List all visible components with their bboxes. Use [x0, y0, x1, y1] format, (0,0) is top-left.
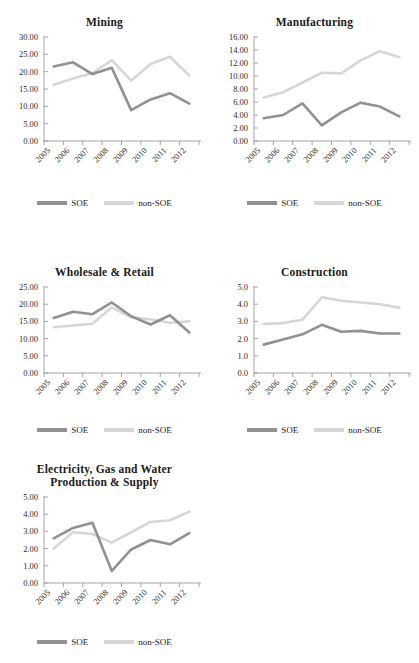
- x-axis-tick-label: 2008: [301, 377, 320, 396]
- x-axis-tick-label: 2005: [243, 145, 262, 164]
- legend-item-soe: SOE: [247, 198, 298, 208]
- legend-swatch-non-soe: [104, 428, 134, 433]
- series-line-non-soe: [264, 51, 400, 97]
- x-axis-tick-label: 2007: [282, 145, 301, 164]
- legend-label-non-soe: non-SOE: [138, 425, 172, 435]
- chart-panel-wholesale-retail: Wholesale & Retail 0.005.0010.0015.0020.…: [0, 252, 209, 435]
- x-axis-tick-label: 2012: [379, 377, 398, 396]
- x-axis-tick-label: 2005: [33, 377, 52, 396]
- y-axis-tick-label: 1.00: [23, 561, 38, 571]
- line-chart-electricity: 0.001.002.003.004.005.002005200620072008…: [0, 491, 209, 633]
- y-axis-tick-label: 20.00: [19, 67, 38, 77]
- legend-item-non-soe: non-SOE: [314, 425, 382, 435]
- series-line-non-soe: [54, 57, 190, 85]
- x-axis-tick-label: 2008: [91, 377, 110, 396]
- y-axis-tick-label: 8.00: [233, 84, 248, 94]
- x-axis-tick-label: 2009: [321, 145, 340, 164]
- chart-title-mining: Mining: [0, 2, 209, 29]
- y-axis-tick-label: 16.00: [229, 32, 248, 42]
- x-axis-tick-label: 2006: [52, 145, 71, 164]
- y-axis-tick-label: 20.00: [19, 299, 38, 309]
- legend-swatch-soe: [37, 640, 67, 645]
- legend-label-soe: SOE: [281, 198, 298, 208]
- legend-label-non-soe: non-SOE: [138, 637, 172, 647]
- chart-panel-mining: Mining 0.005.0010.0015.0020.0025.0030.00…: [0, 2, 209, 208]
- legend-swatch-soe: [37, 428, 67, 433]
- y-axis-tick-label: 5.00: [23, 119, 38, 129]
- x-axis-tick-label: 2010: [340, 145, 359, 164]
- y-axis-tick-label: 4.00: [233, 110, 248, 120]
- x-axis-tick-label: 2005: [243, 377, 262, 396]
- x-axis-tick-label: 2006: [262, 145, 281, 164]
- series-line-soe: [54, 523, 190, 571]
- y-axis-tick-label: 0.0: [237, 368, 248, 378]
- legend-swatch-soe: [37, 201, 67, 206]
- legend-label-soe: SOE: [281, 425, 298, 435]
- line-chart-wholesale-retail: 0.005.0010.0015.0020.0025.00200520062007…: [0, 281, 209, 423]
- y-axis-tick-label: 2.0: [237, 334, 248, 344]
- legend-swatch-non-soe: [104, 201, 134, 206]
- y-axis-tick-label: 4.00: [23, 509, 38, 519]
- x-axis-tick-label: 2007: [72, 145, 91, 164]
- series-line-soe: [264, 325, 400, 345]
- legend-construction: SOE non-SOE: [210, 425, 419, 435]
- x-axis-tick-label: 2010: [130, 587, 149, 606]
- chart-panel-electricity: Electricity, Gas and Water Production & …: [0, 455, 209, 647]
- y-axis-tick-label: 14.00: [229, 45, 248, 55]
- legend-item-soe: SOE: [37, 637, 88, 647]
- y-axis-tick-label: 0.00: [233, 136, 248, 146]
- y-axis-tick-label: 10.00: [19, 334, 38, 344]
- x-axis-tick-label: 2006: [262, 377, 281, 396]
- x-axis-tick-label: 2011: [149, 145, 168, 164]
- y-axis-tick-label: 2.00: [23, 544, 38, 554]
- chart-title-electricity-line2: Production & Supply: [0, 476, 209, 489]
- y-axis-tick-label: 4.0: [237, 299, 248, 309]
- legend-label-soe: SOE: [71, 198, 88, 208]
- legend-swatch-soe: [247, 428, 277, 433]
- legend-electricity: SOE non-SOE: [0, 637, 209, 647]
- series-line-soe: [264, 103, 400, 126]
- x-axis-tick-label: 2012: [169, 145, 188, 164]
- x-axis-tick-label: 2008: [301, 145, 320, 164]
- legend-label-soe: SOE: [71, 425, 88, 435]
- legend-label-non-soe: non-SOE: [348, 425, 382, 435]
- x-axis-tick-label: 2012: [379, 145, 398, 164]
- chart-title-manufacturing: Manufacturing: [210, 2, 419, 29]
- plot-area-electricity: 0.001.002.003.004.005.002005200620072008…: [0, 491, 209, 633]
- legend-item-soe: SOE: [37, 425, 88, 435]
- x-axis-tick-label: 2012: [169, 587, 188, 606]
- y-axis-tick-label: 1.0: [237, 351, 248, 361]
- x-axis-tick-label: 2005: [33, 145, 52, 164]
- x-axis-tick-label: 2010: [340, 377, 359, 396]
- legend-item-non-soe: non-SOE: [104, 425, 172, 435]
- y-axis-tick-label: 0.00: [23, 136, 38, 146]
- y-axis-tick-label: 25.00: [19, 282, 38, 292]
- x-axis-tick-label: 2012: [169, 377, 188, 396]
- chart-panel-manufacturing: Manufacturing 0.002.004.006.008.0010.001…: [210, 2, 419, 208]
- chart-title-wholesale-retail: Wholesale & Retail: [0, 252, 209, 279]
- legend-item-non-soe: non-SOE: [104, 637, 172, 647]
- plot-area-mining: 0.005.0010.0015.0020.0025.0030.002005200…: [0, 31, 209, 196]
- x-axis-tick-label: 2008: [91, 145, 110, 164]
- x-axis-tick-label: 2010: [130, 145, 149, 164]
- y-axis-tick-label: 15.00: [19, 316, 38, 326]
- legend-label-soe: SOE: [71, 637, 88, 647]
- x-axis-tick-label: 2008: [91, 587, 110, 606]
- y-axis-tick-label: 0.00: [23, 578, 38, 588]
- plot-area-manufacturing: 0.002.004.006.008.0010.0012.0014.0016.00…: [210, 31, 419, 196]
- legend-label-non-soe: non-SOE: [348, 198, 382, 208]
- x-axis-tick-label: 2011: [149, 587, 168, 606]
- y-axis-tick-label: 15.00: [19, 84, 38, 94]
- x-axis-tick-label: 2011: [359, 377, 378, 396]
- x-axis-tick-label: 2009: [111, 587, 130, 606]
- line-chart-manufacturing: 0.002.004.006.008.0010.0012.0014.0016.00…: [210, 31, 419, 196]
- x-axis-tick-label: 2009: [111, 377, 130, 396]
- legend-mining: SOE non-SOE: [0, 198, 209, 208]
- x-axis-tick-label: 2005: [33, 587, 52, 606]
- chart-panel-construction: Construction 0.01.02.03.04.05.0200520062…: [210, 252, 419, 435]
- y-axis-tick-label: 3.0: [237, 316, 248, 326]
- x-axis-tick-label: 2006: [52, 377, 71, 396]
- y-axis-tick-label: 25.00: [19, 49, 38, 59]
- y-axis-tick-label: 10.00: [229, 71, 248, 81]
- line-chart-construction: 0.01.02.03.04.05.02005200620072008200920…: [210, 281, 419, 423]
